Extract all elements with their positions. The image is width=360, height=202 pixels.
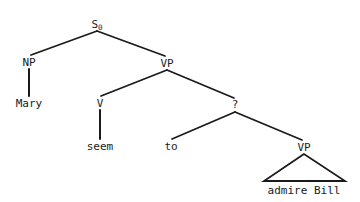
tree-edges-layer <box>0 0 360 202</box>
tree-node-vp2: VP <box>297 142 310 153</box>
tree-node-s0-base: S <box>91 18 98 31</box>
tree-node-s0: S0 <box>91 19 102 30</box>
edge-group <box>29 31 302 140</box>
tree-edge-q-to-vp2 <box>235 112 302 140</box>
tree-edge-vp1-to-v <box>101 70 167 96</box>
tree-terminal-seem: seem <box>87 141 114 152</box>
tree-terminal-mary: Mary <box>16 98 43 109</box>
tree-terminal-to: to <box>164 141 177 152</box>
tree-edge-s0-to-vp1 <box>97 31 165 56</box>
tree-node-np: NP <box>22 57 35 68</box>
tree-node-s0-subscript: 0 <box>98 23 103 32</box>
tree-node-v: V <box>97 98 104 109</box>
tree-node-q: ? <box>232 99 239 110</box>
syntax-tree-diagram: S0NPMaryVPVseem?toVPadmire Bill <box>0 0 360 202</box>
tree-node-vp1: VP <box>160 58 173 69</box>
tree-edge-s0-to-np <box>31 31 97 55</box>
tree-edge-vp1-to-q <box>167 70 234 98</box>
triangle-group <box>264 154 345 181</box>
tree-terminal-admirebill: admire Bill <box>268 185 341 196</box>
tree-edge-q-to-to <box>172 112 235 139</box>
constituent-triangle-vp2 <box>264 154 345 181</box>
